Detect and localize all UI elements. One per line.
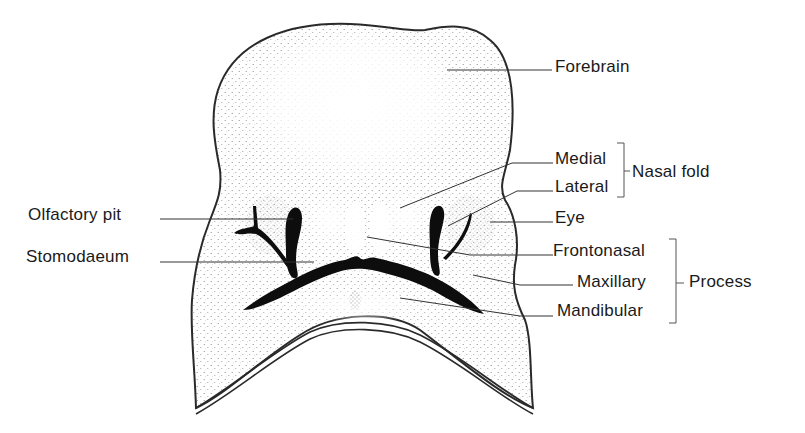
label-nasal-fold: Nasal fold — [632, 163, 710, 181]
label-lateral: Lateral — [555, 178, 608, 196]
label-eye: Eye — [555, 209, 585, 227]
frontonasal-highlight-2 — [370, 202, 390, 254]
label-stomodaeum: Stomodaeum — [26, 248, 129, 266]
frontonasal-highlight — [345, 202, 365, 254]
forebrain-highlight — [235, 35, 475, 205]
lateral-fold-shading-right — [445, 195, 495, 255]
midline-shading — [349, 290, 361, 310]
label-olfactory-pit: Olfactory pit — [28, 206, 121, 224]
label-frontonasal: Frontonasal — [553, 242, 645, 260]
label-process: Process — [689, 273, 752, 291]
embryo-face-diagram: Forebrain Medial Lateral Nasal fold Eye … — [0, 0, 805, 433]
label-maxillary: Maxillary — [577, 273, 646, 291]
label-forebrain: Forebrain — [555, 58, 630, 76]
nasal-fold-bracket — [617, 143, 624, 197]
label-mandibular: Mandibular — [557, 302, 643, 320]
label-medial: Medial — [555, 150, 606, 168]
process-bracket — [669, 239, 676, 323]
